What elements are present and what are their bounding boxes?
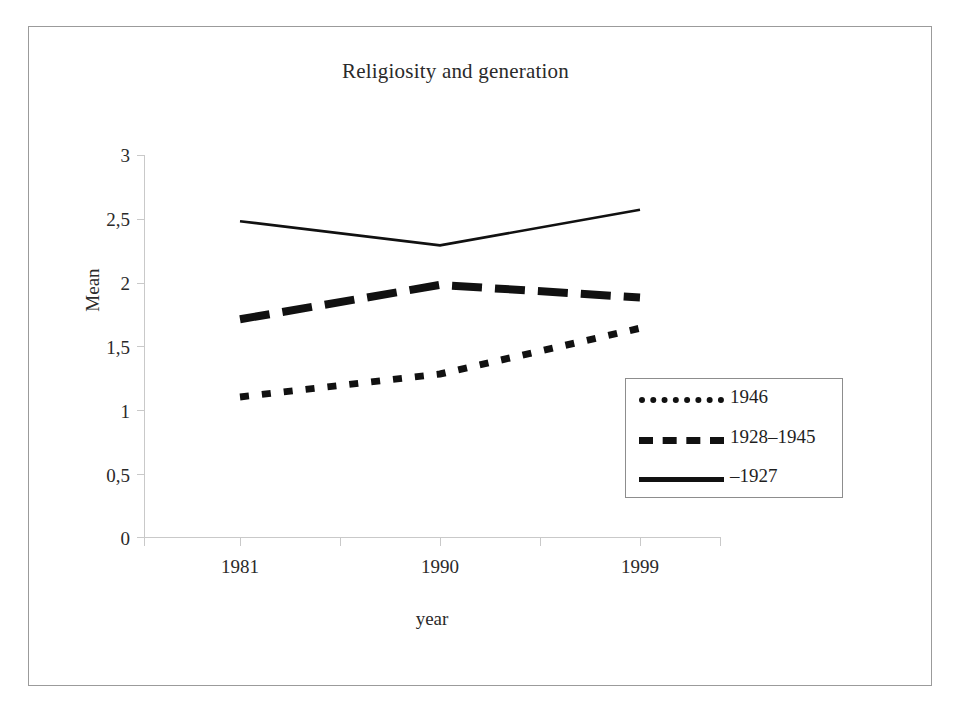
series-line-1928-1945 (240, 285, 640, 319)
legend-label-1928-1945: 1928–1945 (730, 426, 816, 448)
page-canvas: Religiosity and generation Mean year 3 2… (0, 0, 955, 714)
legend-label-1946: 1946 (730, 386, 768, 408)
y-axis-ticks (137, 156, 144, 538)
series-line-1927 (240, 210, 640, 246)
chart-legend: 1946 1928–1945 –1927 (625, 378, 843, 498)
line-chart: Religiosity and generation Mean year 3 2… (0, 0, 955, 714)
legend-swatch-dashed-icon (639, 437, 724, 444)
plot-drawing-surface (0, 0, 955, 714)
series-line-1946 (240, 328, 640, 397)
legend-swatch-dotted-icon (639, 397, 724, 403)
legend-item-1927[interactable]: –1927 (626, 458, 844, 498)
legend-swatch-solid-icon (639, 477, 724, 482)
legend-item-1946[interactable]: 1946 (626, 379, 844, 419)
legend-item-1928-1945[interactable]: 1928–1945 (626, 419, 844, 459)
legend-label-1927: –1927 (730, 465, 778, 487)
x-axis-ticks (145, 537, 721, 546)
